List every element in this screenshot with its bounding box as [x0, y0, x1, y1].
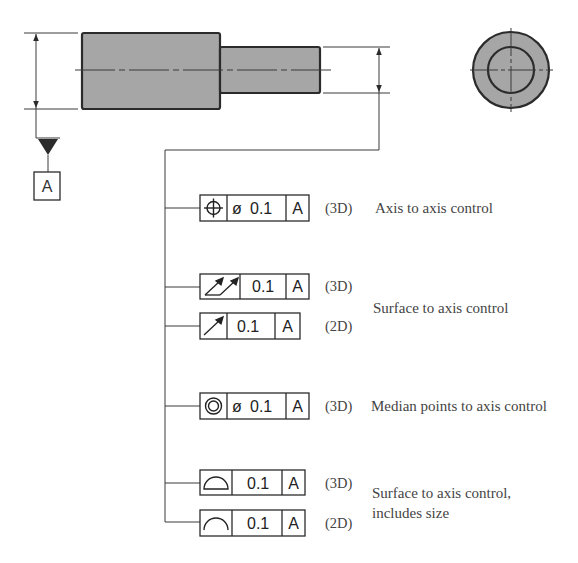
description-axis-to-axis: Axis to axis control [375, 200, 493, 216]
dimension-tag: (3D) [325, 200, 353, 217]
tolerance-value: 0.1 [247, 515, 269, 532]
datum-reference: A [292, 200, 303, 217]
dimension-tag: (3D) [325, 475, 353, 492]
tolerance-value: 0.1 [250, 398, 272, 415]
feature-control-frame-total-runout: 0.1 A [200, 274, 309, 299]
dimension-tag: (2D) [325, 318, 353, 335]
tolerance-value: 0.1 [252, 278, 274, 295]
datum-triangle-icon [38, 139, 58, 155]
description-median-points: Median points to axis control [371, 398, 547, 414]
diameter-symbol: ø [232, 398, 242, 415]
gdt-diagram: A ø 0.1 A (3D) Axis to axis co [0, 0, 578, 563]
dimension-tag: (3D) [325, 398, 353, 415]
feature-control-frame-concentricity: ø 0.1 A [200, 393, 309, 419]
feature-control-frame-profile-surface: 0.1 A [200, 470, 305, 495]
datum-feature-dimension [24, 33, 78, 138]
datum-reference: A [288, 475, 299, 492]
tolerance-value: 0.1 [247, 475, 269, 492]
feature-control-frame-position: ø 0.1 A [200, 195, 309, 221]
tolerance-value: 0.1 [250, 200, 272, 217]
dimension-tag: (2D) [325, 515, 353, 532]
datum-symbol: A [34, 139, 60, 200]
part-side-view [75, 33, 333, 109]
part-end-view [470, 28, 553, 112]
tolerance-value: 0.1 [237, 318, 259, 335]
description-includes-size-line1: Surface to axis control, [372, 485, 511, 501]
feature-control-frame-circular-runout: 0.1 A [200, 313, 300, 339]
diameter-symbol: ø [232, 200, 242, 217]
datum-reference: A [288, 515, 299, 532]
datum-reference: A [292, 278, 303, 295]
large-cylinder [82, 33, 220, 109]
description-surface-to-axis: Surface to axis control [373, 300, 508, 316]
feature-control-frame-profile-line: 0.1 A [200, 510, 305, 536]
dimension-tag: (3D) [325, 278, 353, 295]
datum-reference: A [282, 318, 293, 335]
datum-reference: A [292, 398, 303, 415]
datum-label: A [42, 178, 53, 195]
leader-line [165, 92, 379, 522]
description-includes-size-line2: includes size [372, 505, 449, 521]
